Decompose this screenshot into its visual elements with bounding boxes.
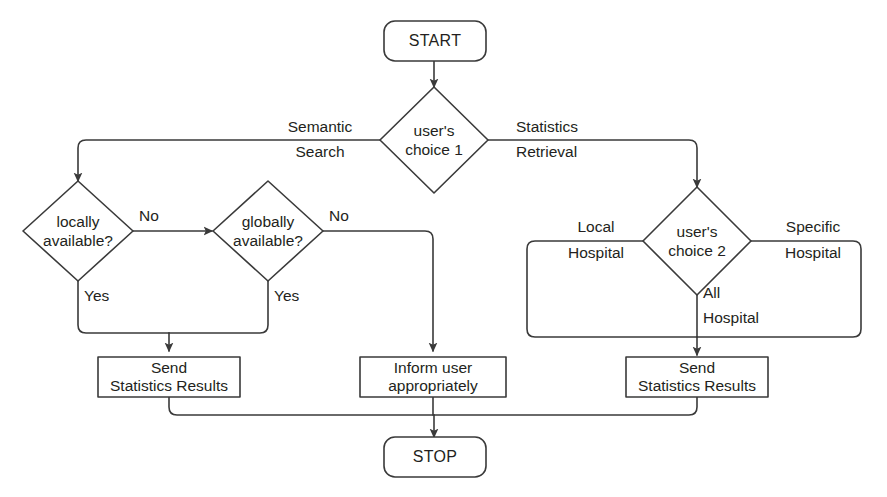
edge-label-local-hospital-line1: Local [577, 218, 614, 235]
node-start[interactable]: START [384, 21, 486, 61]
globally-available-label-line2: available? [233, 232, 303, 249]
globally-available-shape [213, 181, 323, 281]
locally-available-label-line1: locally [56, 213, 99, 230]
edge-globally-yes-to-send-left [169, 281, 268, 333]
node-send-left[interactable]: Send Statistics Results [98, 357, 240, 397]
edge-label-globally-yes: Yes [274, 287, 300, 304]
node-send-right[interactable]: Send Statistics Results [626, 357, 768, 397]
send-right-label-line1: Send [679, 359, 715, 376]
choice2-shape [643, 187, 751, 295]
choice1-label-line1: user's [414, 122, 455, 139]
send-left-label-line1: Send [151, 359, 187, 376]
edge-label-locally-yes: Yes [84, 287, 110, 304]
inform-user-label-line1: Inform user [394, 359, 472, 376]
choice1-label-line2: choice 1 [405, 141, 463, 158]
edge-label-local-hospital-line2: Hospital [568, 244, 624, 261]
start-label: START [409, 32, 461, 49]
edge-label-locally-no: No [139, 207, 159, 224]
send-left-label-line2: Statistics Results [110, 377, 228, 394]
edge-globally-no-to-inform-user [323, 231, 433, 351]
locally-available-label-line2: available? [43, 232, 113, 249]
edge-label-semantic-search-line1: Semantic [288, 118, 353, 135]
edge-send-left-to-stop-collector [169, 397, 434, 415]
choice2-label-line2: choice 2 [668, 242, 726, 259]
flowchart-canvas: START user's choice 1 locally available?… [0, 0, 887, 497]
node-globally-available[interactable]: globally available? [213, 181, 323, 281]
locally-available-shape [23, 181, 133, 281]
edge-label-all-hospital-line1: All [703, 284, 720, 301]
stop-label: STOP [413, 448, 457, 465]
send-right-label-line2: Statistics Results [638, 377, 756, 394]
edge-label-statistics-retrieval-line2: Retrieval [516, 143, 577, 160]
node-choice2[interactable]: user's choice 2 [643, 187, 751, 295]
node-inform-user[interactable]: Inform user appropriately [360, 357, 506, 397]
inform-user-label-line2: appropriately [388, 377, 478, 394]
node-stop[interactable]: STOP [384, 437, 486, 477]
edge-label-globally-no: No [329, 207, 349, 224]
edge-label-specific-hospital-line2: Hospital [785, 244, 841, 261]
globally-available-label-line1: globally [242, 213, 295, 230]
flowchart-svg: START user's choice 1 locally available?… [0, 0, 887, 497]
edge-label-semantic-search-line2: Search [295, 143, 344, 160]
choice2-label-line1: user's [677, 223, 718, 240]
node-choice1[interactable]: user's choice 1 [380, 87, 488, 193]
edge-label-statistics-retrieval-line1: Statistics [516, 118, 578, 135]
edge-label-all-hospital-line2: Hospital [703, 309, 759, 326]
edge-send-right-to-stop-collector [434, 397, 697, 415]
choice1-shape [380, 87, 488, 193]
edge-label-specific-hospital-line1: Specific [786, 218, 841, 235]
node-locally-available[interactable]: locally available? [23, 181, 133, 281]
